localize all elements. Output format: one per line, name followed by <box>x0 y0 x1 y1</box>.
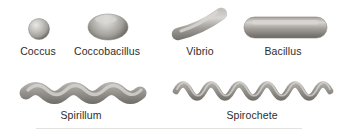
coccus-shape <box>29 19 50 40</box>
vibrio-label: Vibrio <box>186 45 213 57</box>
bacillus-shape <box>244 17 327 38</box>
coccobacillus-shape <box>88 14 128 40</box>
spirillum-shape <box>26 86 141 98</box>
baseline-rule <box>36 128 302 129</box>
spirochete-shape <box>176 83 330 98</box>
vibrio-shape <box>178 12 221 34</box>
coccus-label: Coccus <box>20 45 56 57</box>
bacteria-shapes-canvas <box>0 0 342 132</box>
spirochete-label: Spirochete <box>226 109 277 121</box>
bacteria-shapes-figure: Coccus Coccobacillus Vibrio Bacillus Spi… <box>0 0 342 132</box>
bacillus-label: Bacillus <box>265 45 302 57</box>
spirillum-label: Spirillum <box>60 109 101 121</box>
coccobacillus-label: Coccobacillus <box>74 45 140 57</box>
